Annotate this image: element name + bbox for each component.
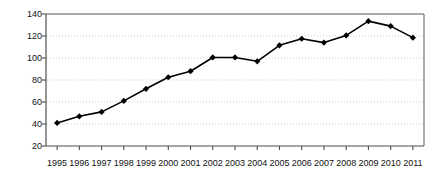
x-axis-tick-labels: 1995199619971998199920002001200220032004… xyxy=(0,0,436,177)
x-axis-tick-label: 2011 xyxy=(393,158,433,168)
line-chart: 2002 = 100 20406080100120140 19951996199… xyxy=(0,0,436,177)
